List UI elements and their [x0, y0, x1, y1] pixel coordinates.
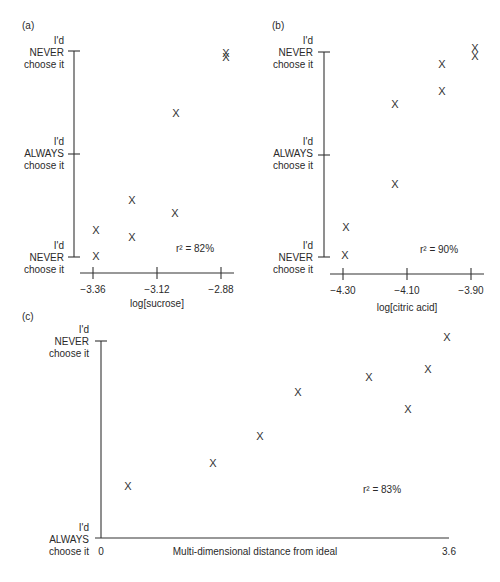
- panel-b-y-label-mid: I'd ALWAYS choose it: [273, 136, 313, 171]
- panel-a-r2-annotation: r² = 82%: [176, 243, 214, 254]
- data-point-marker: X: [128, 194, 136, 206]
- svg-text:NEVER: NEVER: [279, 252, 313, 263]
- data-point-marker: X: [404, 403, 412, 415]
- data-point-marker: X: [443, 331, 451, 343]
- panel-b-x-label: log[citric acid]: [377, 302, 438, 313]
- panel-b-x-tick-label: −4.10: [394, 285, 420, 296]
- panel-a-x-tick-label: −3.36: [80, 284, 106, 295]
- panel-b-x-tick-label: −4.30: [330, 285, 356, 296]
- svg-text:choose it: choose it: [24, 264, 64, 275]
- svg-text:NEVER: NEVER: [30, 47, 64, 58]
- panel-c-points: X X X X X X X X: [124, 331, 451, 492]
- panel-a-x-tick-label: −3.12: [144, 284, 170, 295]
- data-point-marker: X: [172, 107, 180, 119]
- data-point-marker: X: [424, 363, 432, 375]
- panel-c-y-label-top: I'd NEVER choose it: [49, 324, 89, 359]
- panel-b-y-label-bottom: I'd NEVER choose it: [273, 240, 313, 275]
- svg-text:choose it: choose it: [273, 160, 313, 171]
- data-point-marker: X: [341, 249, 349, 261]
- svg-text:I'd: I'd: [79, 522, 89, 533]
- data-point-marker: X: [124, 480, 132, 492]
- data-point-marker: X: [438, 85, 446, 97]
- data-point-marker: X: [256, 430, 264, 442]
- panel-c-x-label: Multi-dimensional distance from ideal: [173, 546, 338, 557]
- data-point-marker: X: [438, 58, 446, 70]
- panel-c-r2-annotation: r² = 83%: [363, 484, 401, 495]
- panel-b-y-label-top: I'd NEVER choose it: [273, 35, 313, 70]
- svg-text:NEVER: NEVER: [30, 252, 64, 263]
- svg-text:ALWAYS: ALWAYS: [49, 534, 89, 545]
- panel-b-points: X X X X X X X X: [341, 42, 479, 261]
- svg-text:choose it: choose it: [49, 546, 89, 557]
- panel-c-y-label-bottom: I'd ALWAYS choose it: [49, 522, 89, 557]
- panel-a-y-label-mid: I'd ALWAYS choose it: [24, 136, 64, 171]
- svg-text:choose it: choose it: [24, 160, 64, 171]
- panel-a-points: X X X X X X X X: [92, 47, 230, 262]
- data-point-marker: X: [391, 178, 399, 190]
- svg-text:choose it: choose it: [273, 264, 313, 275]
- svg-text:choose it: choose it: [49, 348, 89, 359]
- svg-text:I'd: I'd: [54, 35, 64, 46]
- svg-text:I'd: I'd: [54, 240, 64, 251]
- data-point-marker: X: [171, 207, 179, 219]
- panel-b: (b) I'd NEVER choose it I'd ALWAYS choos…: [272, 20, 484, 313]
- data-point-marker: X: [365, 371, 373, 383]
- panel-b-tag: (b): [272, 20, 284, 31]
- svg-text:ALWAYS: ALWAYS: [273, 148, 313, 159]
- panel-a-x-tick-label: −2.88: [208, 284, 234, 295]
- svg-text:I'd: I'd: [54, 136, 64, 147]
- data-point-marker: X: [92, 250, 100, 262]
- svg-text:ALWAYS: ALWAYS: [24, 148, 64, 159]
- panel-a-x-label: log[sucrose]: [130, 298, 184, 309]
- data-point-marker: X: [391, 98, 399, 110]
- svg-text:NEVER: NEVER: [279, 47, 313, 58]
- panel-a-y-label-bottom: I'd NEVER choose it: [24, 240, 64, 275]
- data-point-marker: X: [92, 224, 100, 236]
- panel-c-x-max-label: 3.6: [442, 546, 456, 557]
- data-point-marker: X: [471, 50, 479, 62]
- panel-c-x-min-label: 0: [98, 546, 104, 557]
- svg-text:I'd: I'd: [303, 240, 313, 251]
- svg-text:NEVER: NEVER: [55, 336, 89, 347]
- panel-a: (a) I'd NEVER choose it I'd ALWAYS choos…: [22, 20, 234, 309]
- data-point-marker: X: [294, 386, 302, 398]
- data-point-marker: X: [209, 457, 217, 469]
- svg-text:choose it: choose it: [24, 59, 64, 70]
- panel-b-r2-annotation: r² = 90%: [420, 244, 458, 255]
- panel-a-y-label-top: I'd NEVER choose it: [24, 35, 64, 70]
- panel-c-tag: (c): [22, 311, 34, 322]
- panel-b-x-tick-label: −3.90: [458, 285, 484, 296]
- svg-text:I'd: I'd: [79, 324, 89, 335]
- svg-text:I'd: I'd: [303, 35, 313, 46]
- svg-text:I'd: I'd: [303, 136, 313, 147]
- figure: (a) I'd NEVER choose it I'd ALWAYS choos…: [0, 0, 500, 582]
- panel-c: (c) I'd NEVER choose it I'd ALWAYS choos…: [22, 311, 456, 557]
- data-point-marker: X: [342, 221, 350, 233]
- data-point-marker: X: [128, 231, 136, 243]
- data-point-marker: X: [222, 51, 230, 63]
- svg-text:choose it: choose it: [273, 59, 313, 70]
- panel-a-tag: (a): [22, 20, 34, 31]
